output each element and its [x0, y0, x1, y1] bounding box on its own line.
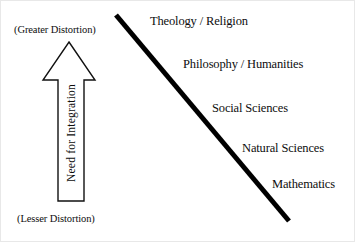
- diagram-canvas: [1, 1, 355, 242]
- discipline-label-philosophy-humanities: Philosophy / Humanities: [183, 58, 303, 71]
- diagonal-divider-line: [116, 15, 289, 221]
- discipline-label-natural-sciences: Natural Sciences: [242, 142, 324, 155]
- greater-distortion-label: (Greater Distortion): [14, 25, 96, 36]
- discipline-label-mathematics: Mathematics: [272, 178, 335, 191]
- need-for-integration-label: Need for Integration: [65, 73, 77, 193]
- integration-distortion-figure: (Greater Distortion) (Lesser Distortion)…: [0, 0, 355, 242]
- discipline-label-social-sciences: Social Sciences: [212, 102, 288, 115]
- discipline-label-theology-religion: Theology / Religion: [150, 15, 248, 28]
- lesser-distortion-label: (Lesser Distortion): [17, 214, 95, 225]
